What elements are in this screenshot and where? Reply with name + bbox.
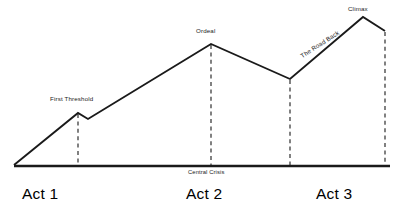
label-ordeal: Ordeal [196, 28, 215, 34]
label-climax: Climax [348, 6, 368, 12]
label-first-threshold: First Threshold [50, 96, 93, 102]
label-act-2: Act 2 [186, 186, 222, 202]
label-act-3: Act 3 [316, 186, 352, 202]
story-structure-diagram: First Threshold Ordeal The Road Back Cli… [0, 0, 404, 213]
label-act-1: Act 1 [22, 186, 58, 202]
label-central-crisis: Central Crisis [188, 170, 224, 176]
